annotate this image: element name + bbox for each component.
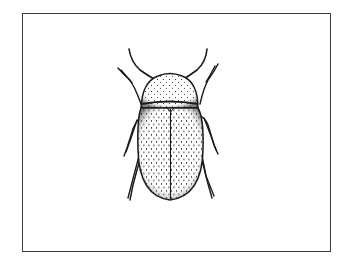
beetle-illustration — [0, 0, 349, 268]
right-front-leg — [200, 64, 218, 104]
right-antenna — [184, 49, 207, 79]
left-front-leg — [118, 68, 141, 104]
left-antenna — [129, 49, 154, 79]
elytra — [138, 108, 203, 200]
pronotum — [141, 74, 198, 109]
